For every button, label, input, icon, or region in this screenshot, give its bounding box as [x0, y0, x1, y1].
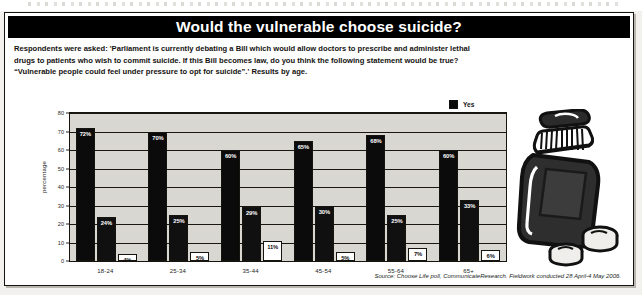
bar-value-label: 5% — [191, 255, 208, 261]
y-axis-tick-30: 30 — [44, 203, 64, 209]
y-axis-tick-60: 60 — [44, 147, 64, 153]
bar-value-label: 70% — [149, 135, 166, 141]
bar-value-label: 25% — [170, 218, 187, 224]
bar-value-label: 24% — [98, 220, 115, 226]
title-bar: Would the vulnerable choose suicide? — [8, 16, 630, 38]
y-axis-tick-80: 80 — [44, 110, 64, 116]
bar-65+-no[interactable]: 33% — [460, 200, 479, 261]
bar-group-65+: 60%33%6% — [433, 113, 506, 261]
x-axis-label-35-44: 35-44 — [214, 268, 287, 274]
bar-18-24-no[interactable]: 24% — [97, 217, 116, 261]
bar-value-label: 29% — [243, 210, 260, 216]
bar-group-18-24: 72%24%4% — [70, 113, 143, 261]
bar-group-45-54: 65%30%5% — [288, 113, 361, 261]
bar-value-label: 65% — [295, 144, 312, 150]
bar-35-44-no[interactable]: 29% — [242, 207, 261, 261]
page-background: Would the vulnerable choose suicide? Res… — [0, 0, 642, 295]
intro-paragraph: Respondents were asked: 'Parliament is c… — [14, 43, 484, 78]
source-note: Source: Choose Life poll, CommunicateRes… — [374, 273, 621, 279]
bar-65+-yes[interactable]: 60% — [439, 150, 458, 261]
bar-value-label: 72% — [77, 131, 94, 137]
bar-group-35-44: 60%29%11% — [215, 113, 288, 261]
bar-25-34-don-t-know[interactable]: 5% — [190, 252, 209, 261]
bar-value-label: 68% — [367, 138, 384, 144]
bar-value-label: 60% — [222, 153, 239, 159]
bar-45-54-don-t-know[interactable]: 5% — [336, 252, 355, 261]
infographic-panel: Would the vulnerable choose suicide? Res… — [4, 12, 634, 286]
bar-group-55-64: 68%25%7% — [361, 113, 434, 261]
bar-value-label: 5% — [337, 255, 354, 261]
x-axis-label-45-54: 45-54 — [287, 268, 360, 274]
legend-label-yes: Yes — [463, 101, 474, 108]
intro-line-3: “Vulnerable people could feel under pres… — [14, 66, 484, 78]
bar-35-44-yes[interactable]: 60% — [221, 150, 240, 261]
bar-value-label: 60% — [440, 153, 457, 159]
legend-swatch-yes — [449, 100, 458, 109]
y-axis-tick-0: 0 — [44, 258, 64, 264]
y-axis-tick-40: 40 — [44, 184, 64, 190]
intro-line-2: drugs to patients who wish to commit sui… — [14, 55, 484, 67]
bar-value-label: 4% — [119, 257, 136, 263]
bar-25-34-no[interactable]: 25% — [169, 215, 188, 261]
bar-value-label: 25% — [388, 218, 405, 224]
bar-value-label: 6% — [482, 253, 499, 259]
intro-line-1: Respondents were asked: 'Parliament is c… — [14, 43, 484, 55]
bar-45-54-no[interactable]: 30% — [315, 206, 334, 262]
bar-value-label: 7% — [409, 251, 426, 257]
y-axis-tick-50: 50 — [44, 166, 64, 172]
y-axis-tick-20: 20 — [44, 221, 64, 227]
bar-chart: percentage 01020304050607080 72%24%4%70%… — [27, 112, 515, 282]
bar-value-label: 33% — [461, 203, 478, 209]
x-axis-label-25-34: 25-34 — [142, 268, 215, 274]
bar-55-64-don-t-know[interactable]: 7% — [408, 248, 427, 261]
bar-25-34-yes[interactable]: 70% — [148, 132, 167, 262]
y-axis-tick-70: 70 — [44, 129, 64, 135]
bar-18-24-don-t-know[interactable]: 4% — [118, 254, 137, 261]
scan-artifact — [0, 0, 642, 11]
page-title: Would the vulnerable choose suicide? — [176, 18, 462, 36]
bar-group-25-34: 70%25%5% — [143, 113, 216, 261]
bar-55-64-no[interactable]: 25% — [387, 215, 406, 261]
y-axis-ticks: 01020304050607080 — [47, 112, 67, 262]
pill-bottle-illustration — [511, 109, 627, 269]
bar-value-label: 30% — [316, 209, 333, 215]
bar-65+-don-t-know[interactable]: 6% — [481, 250, 500, 261]
bar-35-44-don-t-know[interactable]: 11% — [263, 241, 282, 261]
bar-55-64-yes[interactable]: 68% — [366, 135, 385, 261]
y-axis-tick-10: 10 — [44, 240, 64, 246]
bar-45-54-yes[interactable]: 65% — [294, 141, 313, 261]
x-axis-label-18-24: 18-24 — [69, 268, 142, 274]
bar-value-label: 11% — [264, 244, 281, 250]
bar-18-24-yes[interactable]: 72% — [76, 128, 95, 261]
plot-area: 72%24%4%70%25%5%60%29%11%65%30%5%68%25%7… — [69, 112, 507, 262]
